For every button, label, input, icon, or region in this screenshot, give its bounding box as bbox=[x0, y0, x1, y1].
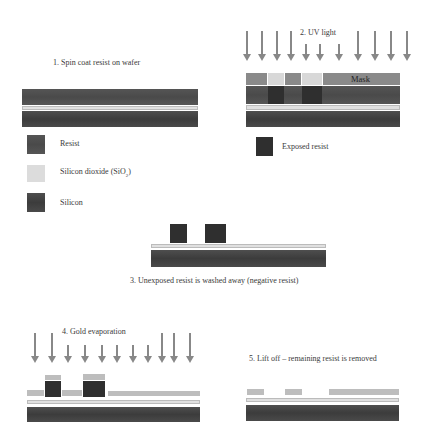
exposed-resist bbox=[170, 224, 187, 243]
gold-on-resist bbox=[45, 375, 61, 380]
oxide-layer bbox=[246, 105, 400, 110]
exposed-resist bbox=[45, 381, 61, 397]
gold-layer bbox=[108, 391, 200, 396]
mask-segment bbox=[285, 73, 301, 85]
legend-label-exposed-resist: Exposed resist bbox=[282, 142, 328, 151]
gold-layer bbox=[247, 389, 264, 395]
legend-swatch-resist bbox=[27, 135, 45, 154]
legend-label-oxide-suffix: ) bbox=[128, 167, 131, 176]
silicon-substrate bbox=[246, 405, 399, 421]
legend-label-oxide: Silicon dioxide (SiO2) bbox=[60, 167, 131, 178]
exposed-resist bbox=[302, 86, 322, 104]
gold-layer bbox=[27, 390, 44, 396]
gold-layer bbox=[329, 389, 399, 395]
mask-opening bbox=[302, 73, 322, 85]
step-1-title: 1. Spin coat resist on wafer bbox=[53, 58, 140, 67]
silicon-substrate bbox=[22, 111, 198, 127]
legend-swatch-exposed-resist bbox=[256, 137, 273, 156]
legend-swatch-oxide bbox=[27, 165, 45, 182]
legend-label-resist: Resist bbox=[60, 139, 80, 148]
mask-segment bbox=[246, 73, 267, 85]
step-3-title: 3. Unexposed resist is washed away (nega… bbox=[130, 276, 298, 285]
legend-swatch-silicon bbox=[27, 193, 45, 212]
mask-label: Mask bbox=[351, 74, 370, 84]
oxide-layer bbox=[27, 400, 200, 404]
silicon-substrate bbox=[27, 407, 200, 422]
silicon-substrate bbox=[246, 111, 400, 127]
exposed-resist bbox=[205, 224, 226, 243]
oxide-layer bbox=[151, 244, 326, 248]
step-4-title: 4. Gold evaporation bbox=[62, 327, 126, 336]
step-2-title: 2. UV light bbox=[300, 28, 336, 37]
oxide-layer bbox=[246, 398, 399, 402]
exposed-resist bbox=[268, 86, 284, 104]
legend-label-silicon: Silicon bbox=[60, 198, 83, 207]
step-5-title: 5. Lift off – remaining resist is remove… bbox=[249, 354, 377, 363]
resist-layer bbox=[22, 89, 198, 105]
mask-opening bbox=[268, 73, 284, 85]
oxide-layer bbox=[22, 106, 198, 110]
gold-on-resist bbox=[83, 374, 105, 380]
gold-layer bbox=[62, 390, 82, 396]
silicon-substrate bbox=[151, 250, 326, 267]
legend-label-oxide-text: Silicon dioxide (SiO bbox=[60, 167, 126, 176]
exposed-resist bbox=[83, 381, 105, 397]
gold-layer bbox=[285, 389, 302, 395]
